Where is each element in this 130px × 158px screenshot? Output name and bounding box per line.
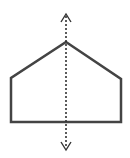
diagram-canvas: [0, 0, 130, 158]
symmetry-diagram: Pentagon (house shape) with a vertical d…: [0, 0, 130, 158]
